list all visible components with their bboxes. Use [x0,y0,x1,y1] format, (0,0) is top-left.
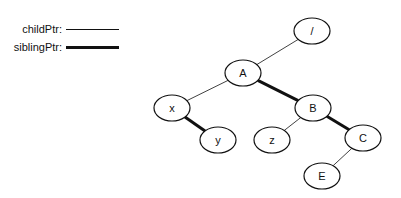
sibling-edge-A-B [258,80,298,100]
node-label: B [309,102,316,114]
tree-node-z: z [254,127,290,153]
node-label: y [215,134,221,146]
node-label: z [269,134,275,146]
tree-diagram: /AxByzCE [0,0,401,198]
tree-node-E: E [304,163,340,189]
tree-node-y: y [200,127,236,153]
tree-node-x: x [154,95,190,121]
node-label: E [318,170,325,182]
sibling-edge-x-y [185,117,205,131]
tree-nodes: /AxByzCE [154,18,381,189]
tree-node-C: C [345,125,381,151]
tree-node-A: A [225,60,261,86]
child-edge-B-z [284,118,301,131]
sibling-edge-B-C [327,116,349,129]
node-label: C [359,132,367,144]
node-label: A [239,67,247,79]
node-label: x [169,102,175,114]
tree-node-root: / [294,18,330,44]
tree-node-B: B [295,95,331,121]
child-edge-root-A [257,39,298,64]
child-edge-A-x [187,80,228,100]
child-edge-C-E [333,148,352,165]
